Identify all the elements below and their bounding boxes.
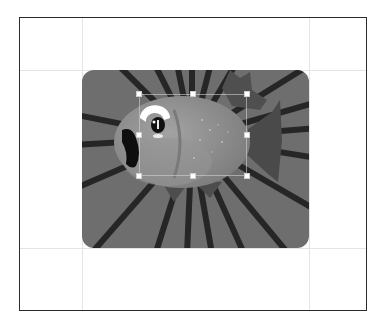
resize-handle-bottom-center[interactable]	[190, 173, 196, 179]
resize-handle-top-left[interactable]	[136, 91, 142, 97]
resize-handle-middle-left[interactable]	[136, 132, 142, 138]
resize-handle-top-center[interactable]	[190, 91, 196, 97]
guide-line-vertical-right	[309, 18, 310, 310]
resize-handle-bottom-right[interactable]	[244, 173, 250, 179]
resize-handle-top-right[interactable]	[244, 91, 250, 97]
resize-handle-bottom-left[interactable]	[136, 173, 142, 179]
resize-handle-middle-right[interactable]	[244, 132, 250, 138]
guide-line-horizontal-bottom	[20, 248, 366, 249]
